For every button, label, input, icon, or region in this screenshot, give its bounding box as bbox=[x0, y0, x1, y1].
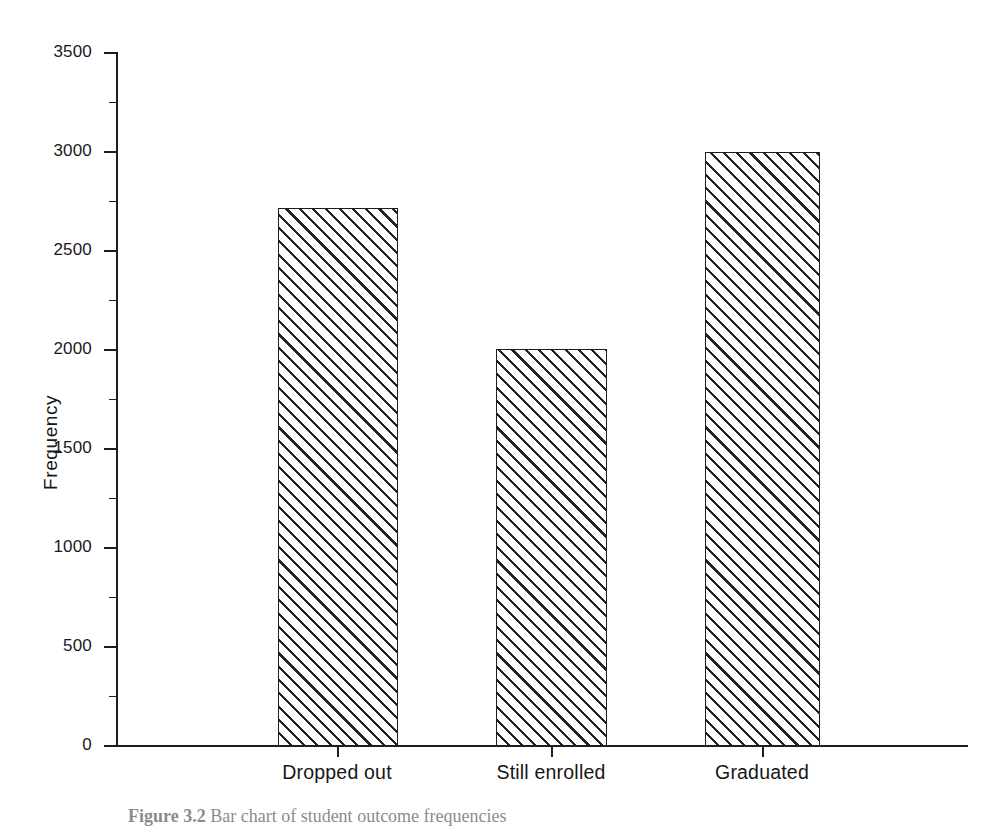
y-minor-tick-250 bbox=[109, 696, 116, 697]
y-tick-1500 bbox=[104, 448, 116, 450]
y-tick-2500 bbox=[104, 250, 116, 252]
y-tick-500 bbox=[104, 646, 116, 648]
y-minor-tick-1750 bbox=[109, 399, 116, 400]
y-minor-tick-2750 bbox=[109, 201, 116, 202]
y-tick-label-1500: 1500 bbox=[6, 438, 92, 458]
x-axis-label-graduated: Graduated bbox=[662, 761, 862, 784]
y-minor-tick-2250 bbox=[109, 300, 116, 301]
y-tick-label-3500: 3500 bbox=[6, 42, 92, 62]
bar-dropped-out[interactable] bbox=[278, 208, 398, 746]
y-minor-tick-1250 bbox=[109, 498, 116, 499]
y-tick-0 bbox=[104, 745, 116, 747]
figure-caption-prefix: Figure 3.2 bbox=[128, 806, 206, 826]
y-tick-3500 bbox=[104, 52, 116, 54]
x-tick-still-enrolled bbox=[551, 746, 553, 757]
y-tick-label-500: 500 bbox=[6, 636, 92, 656]
x-axis-label-dropped-out: Dropped out bbox=[237, 761, 437, 784]
y-minor-tick-3250 bbox=[109, 102, 116, 103]
y-tick-label-2000: 2000 bbox=[6, 339, 92, 359]
y-tick-label-3000: 3000 bbox=[6, 141, 92, 161]
x-tick-graduated bbox=[762, 746, 764, 757]
y-tick-2000 bbox=[104, 349, 116, 351]
x-tick-dropped-out bbox=[337, 746, 339, 757]
y-tick-3000 bbox=[104, 151, 116, 153]
y-tick-label-1000: 1000 bbox=[6, 537, 92, 557]
figure-caption-text: Bar chart of student outcome frequencies bbox=[206, 806, 507, 826]
y-tick-label-0: 0 bbox=[6, 735, 92, 755]
y-tick-1000 bbox=[104, 547, 116, 549]
y-minor-tick-750 bbox=[109, 597, 116, 598]
y-axis-line bbox=[116, 52, 118, 746]
bar-graduated[interactable] bbox=[705, 152, 820, 746]
x-axis-label-still-enrolled: Still enrolled bbox=[451, 761, 651, 784]
bar-still-enrolled[interactable] bbox=[496, 349, 607, 746]
figure-caption: Figure 3.2 Bar chart of student outcome … bbox=[128, 806, 507, 827]
y-tick-label-2500: 2500 bbox=[6, 240, 92, 260]
